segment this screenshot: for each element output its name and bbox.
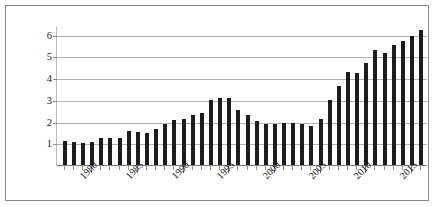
bar <box>118 138 122 166</box>
bar <box>410 36 414 166</box>
bar <box>392 45 396 166</box>
bar <box>108 138 112 166</box>
bar <box>373 50 377 166</box>
bar <box>282 123 286 166</box>
bar <box>309 126 313 166</box>
bar <box>300 124 304 166</box>
x-tick-mark <box>192 166 193 170</box>
bar <box>218 98 222 166</box>
x-tick-mark <box>256 166 257 170</box>
x-tick-mark <box>420 166 421 170</box>
x-tick-mark <box>155 166 156 170</box>
x-tick-mark <box>301 166 302 170</box>
x-tick-mark <box>237 166 238 170</box>
bars-group <box>57 27 427 166</box>
bar <box>419 30 423 166</box>
x-tick-mark <box>329 166 330 170</box>
chart-frame: 123456 19801985199019952000200520102015 <box>5 5 429 201</box>
x-tick-mark <box>393 166 394 170</box>
x-tick-mark <box>384 166 385 170</box>
bar <box>227 98 231 166</box>
bar <box>337 86 341 166</box>
x-tick-mark <box>210 166 211 170</box>
bar <box>291 123 295 166</box>
bar <box>154 129 158 166</box>
x-tick-mark <box>283 166 284 170</box>
bar <box>364 63 368 166</box>
y-tick-label: 4 <box>47 74 52 85</box>
bar <box>191 115 195 166</box>
x-tick-mark <box>338 166 339 170</box>
x-tick-mark <box>119 166 120 170</box>
bar <box>383 53 387 166</box>
bar <box>355 73 359 166</box>
bar <box>255 121 259 166</box>
x-tick-mark <box>109 166 110 170</box>
bar <box>401 41 405 166</box>
x-tick-mark <box>100 166 101 170</box>
bar <box>264 124 268 166</box>
x-tick-mark <box>146 166 147 170</box>
x-tick-mark <box>64 166 65 170</box>
x-tick-mark <box>374 166 375 170</box>
y-tick-label: 6 <box>47 30 52 41</box>
x-tick-mark <box>292 166 293 170</box>
y-tick-label: 2 <box>47 117 52 128</box>
bar <box>72 142 76 166</box>
x-tick-mark <box>347 166 348 170</box>
bar <box>172 120 176 166</box>
y-tick-label: 5 <box>47 52 52 63</box>
bar <box>163 124 167 166</box>
bar <box>63 141 67 166</box>
y-tick-label: 1 <box>47 139 52 150</box>
bar <box>200 113 204 166</box>
y-tick-label: 3 <box>47 96 52 107</box>
plot-area: 123456 <box>56 27 427 166</box>
bar <box>246 115 250 166</box>
bar <box>328 100 332 166</box>
bar <box>236 110 240 166</box>
x-tick-mark <box>73 166 74 170</box>
bar <box>81 143 85 166</box>
bar <box>99 138 103 166</box>
bar <box>346 72 350 166</box>
x-tick-mark <box>201 166 202 170</box>
x-tick-mark <box>164 166 165 170</box>
bar <box>145 133 149 166</box>
x-axis-labels: 19801985199019952000200520102015 <box>56 174 427 204</box>
x-tick-mark <box>247 166 248 170</box>
bar <box>209 100 213 166</box>
bar <box>127 131 131 166</box>
